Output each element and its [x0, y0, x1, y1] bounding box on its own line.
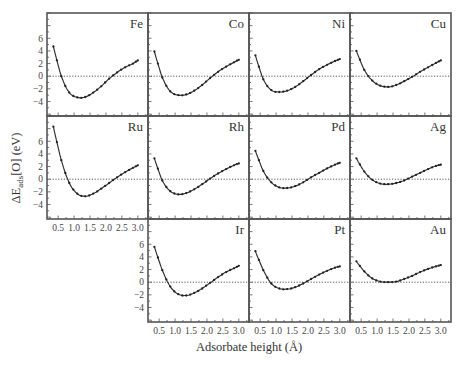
- data-point: [185, 294, 187, 296]
- data-point: [371, 79, 373, 81]
- y-tick-label: 4: [38, 46, 43, 56]
- data-point: [213, 175, 215, 177]
- data-point: [258, 259, 260, 261]
- data-point: [290, 287, 292, 289]
- y-tick-label: −2: [134, 290, 144, 300]
- data-point: [395, 182, 397, 184]
- data-point: [217, 172, 219, 174]
- data-point: [197, 290, 199, 292]
- data-point: [209, 77, 211, 79]
- x-tick-label: 3.0: [132, 223, 144, 233]
- data-point: [431, 64, 433, 66]
- data-point: [318, 172, 320, 174]
- data-point: [262, 78, 264, 80]
- data-point: [161, 269, 163, 271]
- data-point: [108, 78, 110, 80]
- data-point: [286, 90, 288, 92]
- energy-curve: [53, 47, 137, 98]
- y-tick-label: 2: [38, 59, 43, 69]
- data-point: [153, 157, 155, 159]
- data-point: [120, 174, 122, 176]
- data-point: [440, 264, 442, 266]
- data-point: [326, 270, 328, 272]
- data-point: [339, 162, 341, 164]
- data-point: [221, 273, 223, 275]
- data-point: [165, 278, 167, 280]
- data-point: [213, 279, 215, 281]
- y-tick-label: −4: [33, 200, 43, 210]
- x-tick-label: 2.5: [318, 326, 330, 336]
- data-point: [270, 89, 272, 91]
- y-tick-label: −4: [33, 97, 43, 107]
- panel-cu: Cu: [350, 13, 451, 116]
- data-point: [169, 285, 171, 287]
- data-point: [383, 281, 385, 283]
- data-point: [201, 84, 203, 86]
- data-point: [266, 176, 268, 178]
- data-point: [355, 157, 357, 159]
- x-tick-label: 2.5: [217, 326, 229, 336]
- data-point: [100, 188, 102, 190]
- x-tick-label: 1.0: [371, 326, 383, 336]
- data-point: [205, 80, 207, 82]
- data-point: [435, 265, 437, 267]
- data-point: [339, 265, 341, 267]
- data-point: [399, 279, 401, 281]
- y-tick-label: 6: [139, 240, 144, 250]
- data-point: [238, 59, 240, 61]
- data-point: [157, 168, 159, 170]
- data-point: [427, 168, 429, 170]
- panel-label: Ag: [430, 119, 446, 134]
- data-point: [100, 85, 102, 87]
- data-point: [52, 45, 54, 47]
- x-tick-label: 0.5: [153, 326, 165, 336]
- data-point: [415, 174, 417, 176]
- x-axis-title: Adsorbate height (Å): [196, 340, 302, 354]
- data-point: [330, 62, 332, 64]
- data-point: [387, 281, 389, 283]
- data-point: [201, 183, 203, 185]
- data-point: [213, 74, 215, 76]
- panel-fe: Fe−4−20246: [33, 13, 148, 116]
- data-point: [64, 85, 66, 87]
- data-point: [68, 182, 70, 184]
- data-point: [306, 179, 308, 181]
- data-point: [161, 76, 163, 78]
- data-point: [217, 71, 219, 73]
- data-point: [334, 60, 336, 62]
- data-point: [359, 163, 361, 165]
- panel-label: Ru: [128, 119, 144, 134]
- data-point: [387, 86, 389, 88]
- data-point: [238, 162, 240, 164]
- data-point: [205, 285, 207, 287]
- panel-label: Ni: [332, 16, 345, 31]
- y-tick-label: −4: [134, 303, 144, 313]
- data-point: [52, 126, 54, 128]
- data-point: [294, 86, 296, 88]
- data-point: [217, 276, 219, 278]
- data-point: [193, 292, 195, 294]
- data-point: [225, 66, 227, 68]
- data-point: [132, 62, 134, 64]
- data-point: [270, 181, 272, 183]
- data-point: [84, 96, 86, 98]
- data-point: [258, 159, 260, 161]
- data-point: [104, 81, 106, 83]
- data-point: [153, 246, 155, 248]
- data-point: [181, 294, 183, 296]
- data-point: [116, 71, 118, 73]
- data-point: [104, 185, 106, 187]
- data-point: [403, 278, 405, 280]
- data-point: [278, 186, 280, 188]
- x-tick-label: 1.0: [169, 326, 181, 336]
- data-point: [197, 186, 199, 188]
- data-point: [298, 83, 300, 85]
- data-point: [415, 273, 417, 275]
- panel-co: Co: [148, 13, 249, 116]
- data-point: [391, 85, 393, 87]
- data-point: [427, 268, 429, 270]
- data-point: [266, 85, 268, 87]
- data-point: [181, 94, 183, 96]
- data-point: [225, 271, 227, 273]
- energy-curve: [356, 261, 440, 282]
